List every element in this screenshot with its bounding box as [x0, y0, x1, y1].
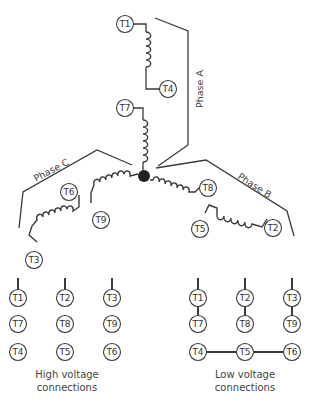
svg-text:T1: T1: [191, 293, 203, 303]
svg-text:T9: T9: [285, 319, 297, 329]
svg-text:T6: T6: [285, 347, 297, 357]
high-voltage-caption-2: connections: [37, 382, 97, 393]
coil-t7-star: [143, 120, 148, 162]
svg-text:T4: T4: [191, 347, 203, 357]
lv-terminal-t9: T9: [284, 316, 301, 333]
svg-text:T5: T5: [58, 347, 70, 357]
lv-terminal-t7: T7: [190, 316, 207, 333]
lv-terminal-t2: T2: [237, 290, 254, 307]
phase-a-label: Phase A: [194, 70, 205, 108]
terminal-t1: T1: [117, 16, 134, 33]
coil-t5-t2: [205, 205, 267, 228]
high-voltage-caption-1: High voltage: [35, 369, 99, 380]
svg-text:T7: T7: [11, 319, 23, 329]
hv-terminal-t1: T1: [10, 290, 27, 307]
high-voltage-connections: T1 T7 T4 T2 T8 T5 T3 T9 T6 High voltage …: [10, 278, 121, 393]
low-voltage-caption-1: Low voltage: [215, 369, 275, 380]
svg-text:T6: T6: [62, 187, 74, 197]
hv-terminal-t6: T6: [104, 344, 121, 361]
motor-wiring-diagram: Phase A Phase B Phase C T1 T4 T7 T8 T5 T…: [0, 0, 316, 404]
svg-text:T4: T4: [161, 84, 173, 94]
terminal-t2: T2: [265, 220, 282, 237]
hv-terminal-t9: T9: [104, 316, 121, 333]
star-point-junction: [138, 170, 150, 182]
svg-text:T6: T6: [105, 347, 117, 357]
svg-text:T7: T7: [118, 103, 130, 113]
terminal-t4: T4: [160, 81, 177, 98]
svg-text:T4: T4: [11, 347, 23, 357]
svg-text:T9: T9: [105, 319, 117, 329]
terminal-t5: T5: [192, 221, 209, 238]
hv-terminal-t7: T7: [10, 316, 27, 333]
svg-text:T2: T2: [58, 293, 70, 303]
svg-text:T3: T3: [285, 293, 297, 303]
lv-terminal-t6: T6: [284, 344, 301, 361]
coil-t9-star: [91, 171, 138, 203]
svg-text:T8: T8: [201, 183, 213, 193]
svg-text:T1: T1: [118, 19, 130, 29]
terminal-t6: T6: [61, 184, 78, 201]
phase-b-label: Phase B: [236, 170, 274, 200]
svg-text:T2: T2: [238, 293, 250, 303]
hv-terminal-t3: T3: [104, 290, 121, 307]
lv-terminal-t5: T5: [237, 344, 254, 361]
lv-terminal-t1: T1: [190, 290, 207, 307]
svg-text:T8: T8: [58, 319, 70, 329]
terminal-t3: T3: [26, 252, 43, 269]
svg-text:T5: T5: [193, 224, 205, 234]
lv-terminal-t4: T4: [190, 344, 207, 361]
svg-text:T9: T9: [94, 215, 106, 225]
lv-terminal-t3: T3: [284, 290, 301, 307]
hv-terminal-t2: T2: [57, 290, 74, 307]
hv-terminal-t5: T5: [57, 344, 74, 361]
svg-text:T3: T3: [105, 293, 117, 303]
hv-terminal-t8: T8: [57, 316, 74, 333]
hv-terminal-t4: T4: [10, 344, 27, 361]
svg-text:T5: T5: [238, 347, 250, 357]
coil-t6-t3: [29, 195, 79, 242]
phase-c-label: Phase C: [32, 156, 71, 184]
terminal-t8: T8: [200, 180, 217, 197]
coil-t8-star: [150, 177, 201, 192]
lv-terminal-t8: T8: [237, 316, 254, 333]
svg-text:T8: T8: [238, 319, 250, 329]
svg-text:T1: T1: [11, 293, 23, 303]
terminal-t7: T7: [117, 100, 134, 117]
svg-text:T2: T2: [266, 223, 278, 233]
low-voltage-caption-2: connections: [215, 382, 275, 393]
terminal-t9: T9: [93, 212, 110, 229]
svg-text:T3: T3: [27, 255, 39, 265]
coil-t1-t4: [146, 32, 151, 67]
low-voltage-connections: T1 T7 T2 T8 T3 T9 T4 T5 T6 Low voltage c…: [190, 278, 301, 393]
phase-c-group: Phase C: [19, 150, 138, 242]
svg-text:T7: T7: [191, 319, 203, 329]
